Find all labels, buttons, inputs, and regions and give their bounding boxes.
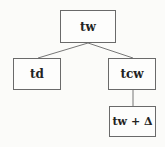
node-label: tw + Δ bbox=[113, 115, 153, 128]
node-left: td bbox=[13, 58, 61, 90]
node-label: td bbox=[30, 67, 44, 81]
edge-root-left bbox=[38, 43, 88, 58]
node-label: tw bbox=[80, 20, 96, 34]
node-root: tw bbox=[60, 10, 116, 43]
edge-root-right bbox=[88, 43, 133, 58]
node-right-child: tw + Δ bbox=[109, 106, 156, 137]
node-label: tcw bbox=[120, 67, 143, 81]
node-right: tcw bbox=[108, 58, 156, 90]
